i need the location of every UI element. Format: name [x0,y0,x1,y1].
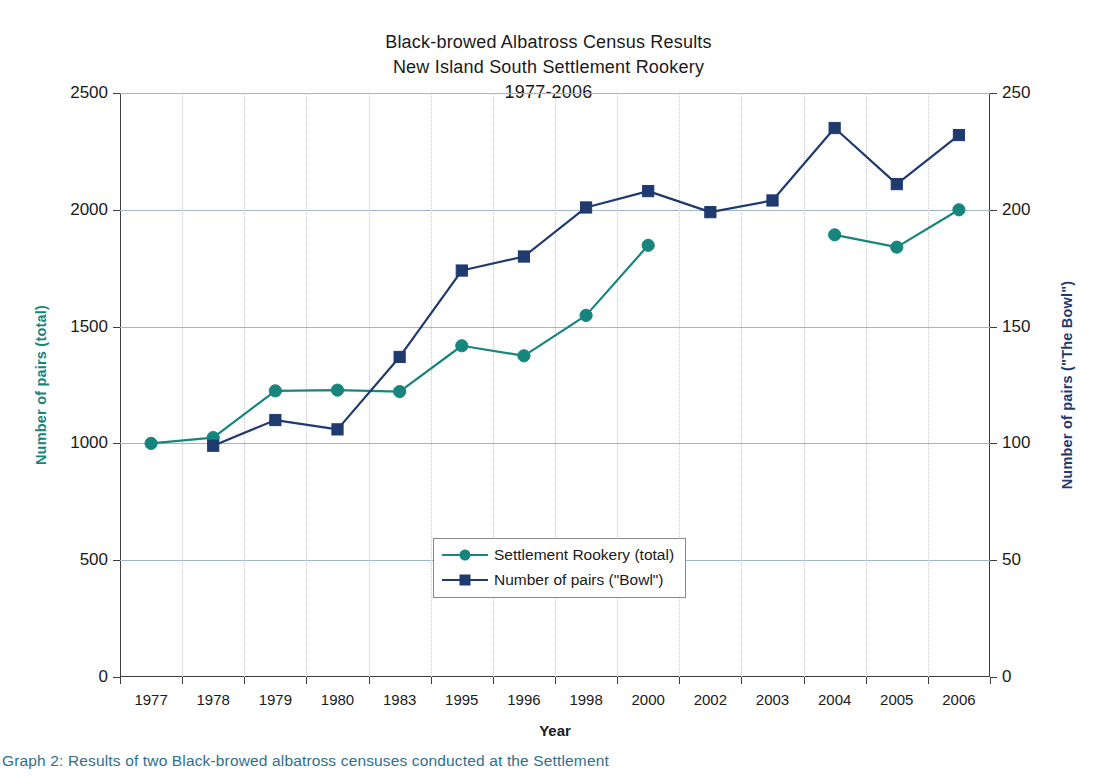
x-axis-tick-label: 1978 [197,691,230,708]
chart-legend: Settlement Rookery (total)Number of pair… [433,538,686,598]
x-axis-tick-label: 1996 [507,691,540,708]
y-axis-title-left-text: Number of pairs (total) [33,305,49,465]
x-axis-tick-mark [804,677,805,684]
y-axis-left-tick-label: 2000 [70,200,108,220]
x-axis-tick-mark [306,677,307,684]
y-axis-right-tick-label: 250 [1002,83,1030,103]
y-axis-right-tick-mark [990,677,997,678]
plot-area: 05001000150020002500 050100150200250 197… [120,93,990,677]
x-axis-tick-label: 2003 [756,691,789,708]
data-point-marker-square [456,265,467,276]
series-total [145,204,965,450]
data-point-marker-square [208,440,219,451]
x-axis-tick-mark [679,677,680,684]
data-point-marker-square [518,251,529,262]
x-axis-tick-label: 2002 [694,691,727,708]
chart-container: Black-browed Albatross Census Results Ne… [0,0,1097,776]
x-axis-tick-mark [990,677,991,684]
series-line [151,245,648,443]
data-point-marker-square [829,122,840,133]
legend-label: Settlement Rookery (total) [494,546,674,564]
x-axis-tick-mark [244,677,245,684]
legend-marker-circle [460,550,471,561]
legend-marker-square [460,575,471,586]
y-axis-left-tick-label: 0 [99,667,108,687]
x-axis-tick-label: 1980 [321,691,354,708]
data-point-marker-circle [331,384,343,396]
legend-swatch [442,573,488,587]
y-axis-right-tick-label: 200 [1002,200,1030,220]
y-axis-right-tick-label: 100 [1002,433,1030,453]
figure-caption: Graph 2: Results of two Black-browed alb… [0,752,1097,770]
y-axis-right-tick-label: 0 [1002,667,1011,687]
x-axis-tick-mark [555,677,556,684]
y-axis-left-tick-label: 500 [80,550,108,570]
legend-swatch [442,548,488,562]
x-axis-tick-mark [431,677,432,684]
y-axis-left-tick-mark [113,677,120,678]
x-axis-tick-mark [866,677,867,684]
y-axis-title-right-text: Number of pairs ("The Bowl") [1059,281,1075,490]
data-point-marker-square [580,202,591,213]
x-axis-tick-label: 1983 [383,691,416,708]
x-axis-tick-label: 1995 [445,691,478,708]
y-axis-left-tick-mark [113,210,120,211]
y-axis-right-tick-mark [990,210,997,211]
data-point-marker-square [891,179,902,190]
data-point-marker-square [953,129,964,140]
x-axis-tick-label: 2004 [818,691,851,708]
y-axis-left-tick-mark [113,93,120,94]
y-axis-right-tick-label: 50 [1002,550,1021,570]
x-axis-tick-mark [617,677,618,684]
y-axis-right-tick-mark [990,93,997,94]
x-axis-tick-mark [741,677,742,684]
data-point-marker-circle [580,309,592,321]
x-axis-tick-label: 1977 [134,691,167,708]
data-point-marker-circle [642,239,654,251]
x-axis-tick-label: 2000 [632,691,665,708]
data-point-marker-circle [456,340,468,352]
data-point-marker-square [394,351,405,362]
legend-item[interactable]: Number of pairs ("Bowl") [442,569,674,591]
data-point-marker-circle [829,229,841,241]
x-axis-tick-mark [120,677,121,684]
y-axis-left-tick-mark [113,443,120,444]
data-point-marker-circle [518,350,530,362]
series-line [213,128,959,446]
y-axis-right-tick-mark [990,327,997,328]
data-point-marker-square [767,195,778,206]
data-point-marker-square [332,424,343,435]
x-axis-tick-mark [369,677,370,684]
y-axis-left-tick-label: 1500 [70,317,108,337]
data-point-marker-square [643,186,654,197]
chart-title-line-1: Black-browed Albatross Census Results [0,30,1097,55]
data-point-marker-circle [145,437,157,449]
chart-title-line-2: New Island South Settlement Rookery [0,55,1097,80]
y-axis-right-tick-label: 150 [1002,317,1030,337]
x-axis-tick-label: 2005 [880,691,913,708]
data-point-marker-circle [891,241,903,253]
data-point-marker-circle [269,385,281,397]
x-axis-tick-mark [928,677,929,684]
y-axis-left-tick-mark [113,560,120,561]
x-axis-tick-label: 1979 [259,691,292,708]
y-axis-left-tick-label: 2500 [70,83,108,103]
legend-item[interactable]: Settlement Rookery (total) [442,544,674,566]
y-axis-right-tick-mark [990,560,997,561]
y-axis-left-tick-mark [113,327,120,328]
x-axis-tick-mark [182,677,183,684]
x-axis-tick-label: 2006 [942,691,975,708]
x-axis-tick-mark [493,677,494,684]
y-axis-left-tick-label: 1000 [70,433,108,453]
x-axis-tick-label: 1998 [569,691,602,708]
data-point-marker-square [270,414,281,425]
series-bowl [208,122,965,451]
y-axis-title-left: Number of pairs (total) [30,93,52,677]
data-point-marker-square [705,207,716,218]
y-axis-right-tick-mark [990,443,997,444]
data-point-marker-circle [394,385,406,397]
y-axis-title-right: Number of pairs ("The Bowl") [1056,93,1078,677]
x-axis-title: Year [120,722,990,739]
data-point-marker-circle [953,204,965,216]
legend-label: Number of pairs ("Bowl") [494,571,664,589]
